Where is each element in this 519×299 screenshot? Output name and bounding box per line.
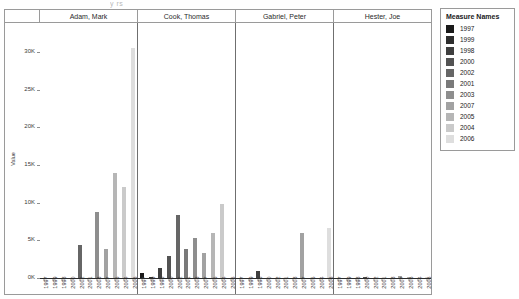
- bar-slot: 1997: [138, 23, 147, 278]
- panel-header-2: Cook, Thomas: [138, 10, 236, 22]
- bar-slot: 2000: [164, 23, 173, 278]
- bar-slot: 2003: [289, 23, 298, 278]
- legend-item-label: 2007: [460, 102, 474, 109]
- bar-slot: 2002: [271, 23, 280, 278]
- bar[interactable]: [193, 238, 197, 278]
- plot-area: 1997199919982000200220012003200720052004…: [334, 23, 431, 294]
- legend-item-2001[interactable]: 2001: [446, 78, 509, 89]
- bar-slot: 2004: [119, 23, 128, 278]
- bar-slot: 2003: [93, 23, 102, 278]
- bar[interactable]: [95, 212, 99, 278]
- bar-slot: 2004: [413, 23, 422, 278]
- bar-slot: 2005: [405, 23, 414, 278]
- legend-color-swatch: [446, 135, 454, 143]
- panel-header-label: Gabriel, Peter: [263, 13, 306, 20]
- bar-slot: 1997: [40, 23, 49, 278]
- legend-item-2003[interactable]: 2003: [446, 89, 509, 100]
- legend-item-label: 2003: [460, 91, 474, 98]
- bar-slot: 2000: [360, 23, 369, 278]
- panel-header-label: Hester, Joe: [365, 13, 400, 20]
- y-tick-label: 30K: [24, 48, 35, 54]
- y-tick-label: 25K: [24, 86, 35, 92]
- legend-item-2004[interactable]: 2004: [446, 122, 509, 133]
- y-tick-label: 5K: [28, 236, 35, 242]
- chart-body: Value 0K5K10K15K20K25K30K 19971999199820…: [5, 23, 431, 294]
- legend-item-label: 2005: [460, 113, 474, 120]
- legend-color-swatch: [446, 36, 454, 44]
- legend-item-2000[interactable]: 2000: [446, 56, 509, 67]
- panel-header-label: Cook, Thomas: [164, 13, 209, 20]
- panel-2: 1997199919982000200220012003200720052004…: [138, 23, 236, 294]
- bar[interactable]: [167, 256, 171, 278]
- legend-item-label: 2006: [460, 135, 474, 142]
- panel-header-4: Hester, Joe: [334, 10, 431, 22]
- bar-slot: 1997: [236, 23, 245, 278]
- legend-color-swatch: [446, 58, 454, 66]
- bar-slot: 2004: [315, 23, 324, 278]
- legend: Measure Names 19971999199820002002200120…: [440, 8, 515, 151]
- bar[interactable]: [327, 228, 331, 278]
- y-tick-label: 20K: [24, 123, 35, 129]
- panel-header-cells: Adam, MarkCook, ThomasGabriel, PeterHest…: [40, 10, 431, 22]
- legend-item-1997[interactable]: 1997: [446, 23, 509, 34]
- bar-slot: 2007: [200, 23, 209, 278]
- bar-slot: 2003: [387, 23, 396, 278]
- bar-slot: 2006: [226, 23, 235, 278]
- bar-slot: 1998: [254, 23, 263, 278]
- bar-slot: 1999: [343, 23, 352, 278]
- legend-item-1998[interactable]: 1998: [446, 45, 509, 56]
- legend-item-2006[interactable]: 2006: [446, 133, 509, 144]
- bar-slot: 2006: [128, 23, 137, 278]
- legend-item-2007[interactable]: 2007: [446, 100, 509, 111]
- bar[interactable]: [131, 48, 135, 278]
- legend-item-label: 1999: [460, 36, 474, 43]
- legend-item-2002[interactable]: 2002: [446, 67, 509, 78]
- bar-series: 1997199919982000200220012003200720052004…: [40, 23, 137, 294]
- y-tick-label: 15K: [24, 161, 35, 167]
- bar[interactable]: [300, 233, 304, 278]
- bar[interactable]: [220, 204, 224, 278]
- panel-grid: 1997199919982000200220012003200720052004…: [40, 23, 431, 294]
- bar-slot: 1998: [58, 23, 67, 278]
- chart-container: Adam, MarkCook, ThomasGabriel, PeterHest…: [4, 9, 432, 295]
- bar[interactable]: [113, 173, 117, 278]
- legend-item-label: 2000: [460, 58, 474, 65]
- legend-color-swatch: [446, 47, 454, 55]
- legend-color-swatch: [446, 124, 454, 132]
- x-axis-baseline: [40, 278, 431, 279]
- bar-slot: 2001: [378, 23, 387, 278]
- plot-area: 1997199919982000200220012003200720052004…: [138, 23, 235, 294]
- bar-slot: 2007: [102, 23, 111, 278]
- legend-item-1999[interactable]: 1999: [446, 34, 509, 45]
- bar-slot: 2002: [75, 23, 84, 278]
- bar-slot: 1998: [352, 23, 361, 278]
- legend-item-label: 1997: [460, 25, 474, 32]
- panel-header-row: Adam, MarkCook, ThomasGabriel, PeterHest…: [5, 10, 431, 23]
- bar[interactable]: [78, 245, 82, 278]
- bar-series: 1997199919982000200220012003200720052004…: [236, 23, 333, 294]
- bar[interactable]: [104, 249, 108, 278]
- bar-slot: 2007: [298, 23, 307, 278]
- bar-slot: 2003: [191, 23, 200, 278]
- bar[interactable]: [122, 187, 126, 278]
- bar-slot: 2001: [280, 23, 289, 278]
- panel-4: 1997199919982000200220012003200720052004…: [334, 23, 431, 294]
- legend-item-2005[interactable]: 2005: [446, 111, 509, 122]
- bar-slot: 2001: [84, 23, 93, 278]
- bar[interactable]: [211, 233, 215, 278]
- bar[interactable]: [202, 253, 206, 278]
- bar-slot: 1998: [156, 23, 165, 278]
- panel-header-label: Adam, Mark: [70, 13, 108, 20]
- panel-header-1: Adam, Mark: [40, 10, 138, 22]
- bar-slot: 2000: [262, 23, 271, 278]
- bar-slot: 2002: [369, 23, 378, 278]
- bar-slot: 1999: [245, 23, 254, 278]
- bar-slot: 2005: [209, 23, 218, 278]
- bar-slot: 2007: [396, 23, 405, 278]
- panel-3: 1997199919982000200220012003200720052004…: [236, 23, 334, 294]
- legend-color-swatch: [446, 80, 454, 88]
- bar[interactable]: [176, 215, 180, 278]
- bar-slot: 2004: [217, 23, 226, 278]
- bar[interactable]: [184, 249, 188, 278]
- bar-slot: 2006: [324, 23, 333, 278]
